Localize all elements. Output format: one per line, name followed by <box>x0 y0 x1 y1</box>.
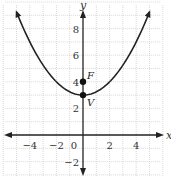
focus-label: F <box>86 70 95 81</box>
curve-right-arrow-icon <box>145 10 151 18</box>
y-axis-label: y <box>79 0 87 12</box>
y-tick-label: 6 <box>73 50 79 61</box>
y-tick-label: −2 <box>64 157 79 168</box>
labeled-points: FV <box>80 70 96 108</box>
y-tick-label: 4 <box>73 77 79 88</box>
point-v-marker <box>80 92 86 98</box>
x-axis-label: x <box>166 129 171 142</box>
curve-left-arrow-icon <box>16 10 22 18</box>
y-axis-down-arrow-icon <box>80 168 86 176</box>
x-tick-label: 2 <box>106 140 112 151</box>
x-tick-label: −2 <box>49 140 64 151</box>
x-tick-label: 4 <box>133 140 139 151</box>
x-axis-left-arrow-icon <box>4 132 12 138</box>
y-tick-label: 2 <box>73 103 79 114</box>
parabola-graph: −4−20248642−2 FV x y <box>0 0 171 180</box>
x-tick-label: −4 <box>22 140 37 151</box>
y-tick-label: 8 <box>73 24 79 35</box>
point-f-marker <box>80 79 86 85</box>
origin-label: 0 <box>71 140 77 151</box>
vertex-label: V <box>87 97 96 108</box>
